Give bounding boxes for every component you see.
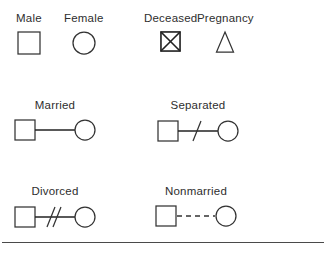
- legend-label-nonmarried: Nonmarried: [165, 185, 227, 198]
- legend-label-deceased: Deceased: [144, 12, 197, 25]
- nonmarried-symbol: [155, 204, 237, 228]
- legend-label-pregnancy: Pregnancy: [197, 12, 254, 25]
- legend-label-male: Male: [16, 12, 42, 25]
- legend-label-female: Female: [64, 12, 104, 25]
- legend-entry-separated: Separated: [157, 99, 239, 144]
- legend-entry-male: Male: [16, 12, 42, 55]
- legend-label-separated: Separated: [171, 99, 226, 112]
- legend-entry-married: Married: [14, 99, 96, 142]
- genogram-legend: Male Female Deceased Pregnancy: [0, 0, 328, 258]
- pregnancy-symbol: [215, 31, 235, 53]
- deceased-symbol: [160, 31, 181, 52]
- legend-entry-nonmarried: Nonmarried: [155, 185, 237, 228]
- legend-label-divorced: Divorced: [32, 185, 79, 198]
- legend-entry-deceased: Deceased: [144, 12, 197, 52]
- female-symbol: [72, 31, 96, 55]
- divorced-symbol: [14, 204, 96, 230]
- legend-entry-divorced: Divorced: [14, 185, 96, 230]
- legend-entry-female: Female: [64, 12, 104, 55]
- legend-entry-pregnancy: Pregnancy: [197, 12, 254, 53]
- male-symbol: [17, 31, 41, 55]
- separated-symbol: [157, 118, 239, 144]
- bottom-divider: [2, 242, 324, 243]
- legend-label-married: Married: [35, 99, 75, 112]
- married-symbol: [14, 118, 96, 142]
